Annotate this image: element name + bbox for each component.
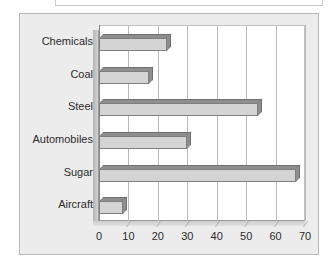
- gridline-50: [246, 25, 247, 221]
- category-row: Steel: [20, 100, 93, 132]
- category-row: Chemicals: [20, 35, 93, 67]
- bar-front-face: [99, 38, 167, 51]
- category-label-coal: Coal: [21, 68, 93, 80]
- category-label-chemicals: Chemicals: [21, 35, 93, 47]
- gridline-40: [217, 25, 218, 221]
- category-label-sugar: Sugar: [21, 166, 93, 178]
- bar-front-face: [99, 136, 187, 149]
- bar-front-face: [99, 169, 296, 182]
- bar-front-face: [99, 71, 149, 84]
- bar-steel[interactable]: [99, 99, 258, 116]
- x-tick-label-0: 0: [87, 230, 111, 242]
- bar-aircraft[interactable]: [99, 197, 123, 214]
- gridline-70: [305, 25, 306, 221]
- bar-sugar[interactable]: [99, 165, 296, 182]
- axis-floor: [93, 221, 305, 226]
- bar-chemicals[interactable]: [99, 34, 167, 51]
- bar-front-face: [99, 103, 258, 116]
- x-tick-label-40: 40: [205, 230, 229, 242]
- category-row: Coal: [20, 68, 93, 100]
- x-tick-label-70: 70: [293, 230, 317, 242]
- x-tick-label-50: 50: [234, 230, 258, 242]
- chart-panel: ChemicalsCoalSteelAutomobilesSugarAircra…: [19, 13, 319, 255]
- category-label-steel: Steel: [21, 100, 93, 112]
- plot-area: [99, 25, 305, 221]
- gridline-0: [99, 25, 100, 221]
- gridline-20: [158, 25, 159, 221]
- gridline-30: [187, 25, 188, 221]
- category-row: Aircraft: [20, 198, 93, 230]
- category-label-aircraft: Aircraft: [21, 198, 93, 210]
- plot-top-edge: [99, 25, 305, 26]
- x-tick-label-20: 20: [146, 230, 170, 242]
- x-tick-label-60: 60: [264, 230, 288, 242]
- top-clipped-box: [55, 0, 323, 6]
- category-label-automobiles: Automobiles: [21, 133, 93, 145]
- bar-front-face: [99, 201, 123, 214]
- x-tick-label-30: 30: [175, 230, 199, 242]
- bar-automobiles[interactable]: [99, 132, 187, 149]
- gridline-60: [276, 25, 277, 221]
- category-row: Automobiles: [20, 133, 93, 165]
- x-tick-label-10: 10: [116, 230, 140, 242]
- category-row: Sugar: [20, 166, 93, 198]
- gridline-10: [128, 25, 129, 221]
- bar-coal[interactable]: [99, 67, 149, 84]
